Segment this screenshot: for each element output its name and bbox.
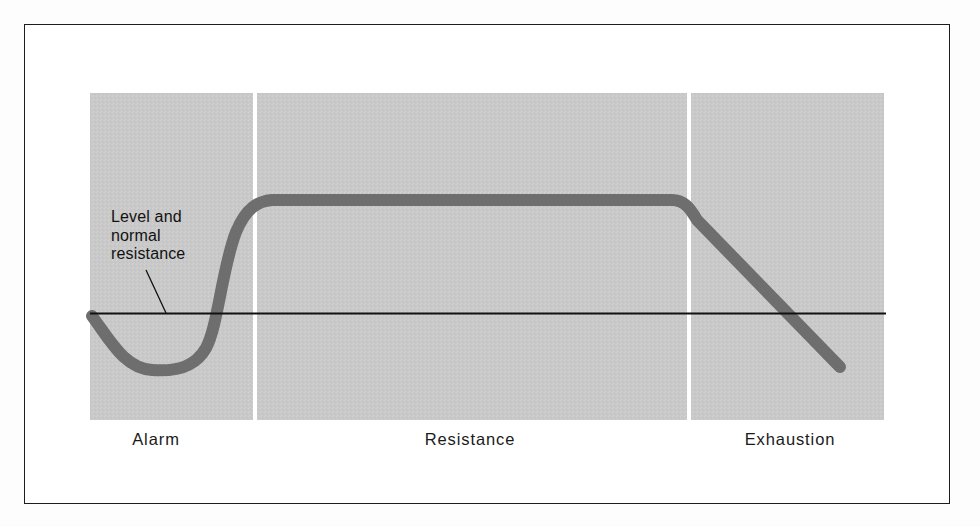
annotation-level-and-normal-resistance: Level and normal resistance	[111, 208, 185, 264]
annotation-line-1: Level and	[111, 208, 185, 227]
phase-label-exhaustion: Exhaustion	[745, 430, 836, 449]
phase-panel-resistance	[257, 93, 687, 420]
phase-label-alarm: Alarm	[132, 430, 180, 449]
annotation-line-2: normal	[111, 227, 185, 246]
plot-background	[90, 93, 884, 420]
figure-root: Level and normal resistance Alarm Resist…	[0, 0, 980, 527]
phase-panel-exhaustion	[691, 93, 884, 420]
annotation-line-3: resistance	[111, 245, 185, 264]
phase-label-resistance: Resistance	[425, 430, 516, 449]
